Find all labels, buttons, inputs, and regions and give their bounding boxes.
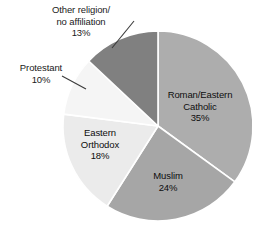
pie-label-other-religion-line2: no affiliation <box>33 16 129 28</box>
pie-label-protestant-line1: Protestant <box>2 62 80 74</box>
pie-label-roman-eastern-catholic: Roman/Eastern Catholic 35% <box>150 89 250 124</box>
pie-label-other-religion-value: 13% <box>33 27 129 39</box>
pie-chart: Other religion/ no affiliation 13% Prote… <box>0 0 256 228</box>
pie-label-protestant: Protestant 10% <box>2 62 80 85</box>
pie-label-eastern-orthodox-value: 18% <box>63 150 137 162</box>
pie-label-other-religion: Other religion/ no affiliation 13% <box>33 4 129 39</box>
pie-label-roman-eastern-catholic-line1: Roman/Eastern <box>150 89 250 101</box>
pie-label-muslim: Muslim 24% <box>133 170 203 193</box>
pie-label-muslim-value: 24% <box>133 182 203 194</box>
pie-label-eastern-orthodox-line2: Orthodox <box>63 139 137 151</box>
pie-label-muslim-line1: Muslim <box>133 170 203 182</box>
pie-label-eastern-orthodox-line1: Eastern <box>63 127 137 139</box>
pie-label-eastern-orthodox: Eastern Orthodox 18% <box>63 127 137 162</box>
pie-label-other-religion-line1: Other religion/ <box>33 4 129 16</box>
pie-label-protestant-value: 10% <box>2 74 80 86</box>
pie-label-roman-eastern-catholic-line2: Catholic <box>150 101 250 113</box>
pie-label-roman-eastern-catholic-value: 35% <box>150 112 250 124</box>
